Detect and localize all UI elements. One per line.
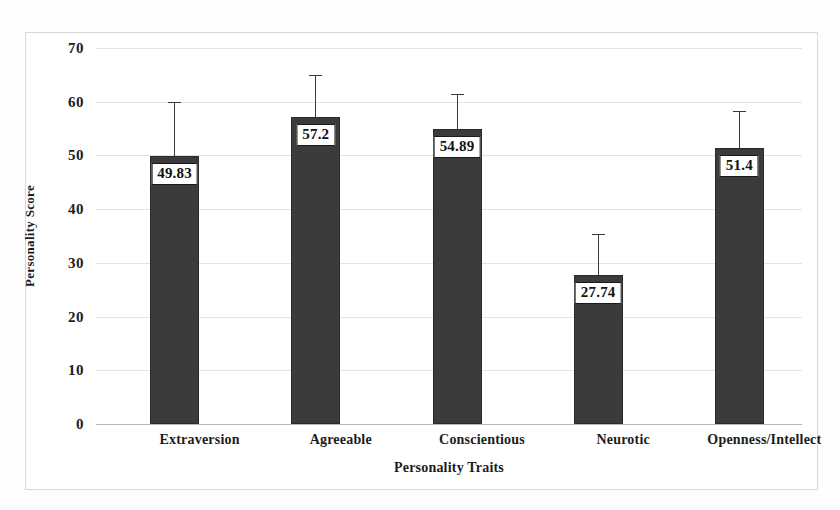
data-label: 51.4	[720, 155, 759, 177]
bar-extraversion[interactable]	[150, 156, 199, 424]
y-tick-label-30: 30	[68, 254, 84, 271]
y-tick-label-10: 10	[68, 362, 84, 379]
error-bar-cap	[592, 234, 605, 235]
data-label: 27.74	[575, 282, 622, 304]
error-bar	[457, 94, 458, 129]
data-label: 49.83	[151, 163, 198, 185]
data-label: 57.2	[296, 124, 335, 146]
x-tick-label-openness-intellect: Openness/Intellect	[679, 432, 840, 448]
gridline-0	[96, 424, 802, 425]
y-tick-label-70: 70	[68, 40, 84, 57]
bar-conscientious[interactable]	[433, 129, 482, 424]
error-bar-cap	[309, 75, 322, 76]
bar-openness-intellect[interactable]	[715, 148, 764, 424]
x-axis-title: Personality Traits	[96, 460, 802, 476]
y-axis-title: Personality Score	[22, 185, 38, 287]
bar-group: 27.74	[574, 48, 623, 424]
error-bar	[174, 102, 175, 157]
bar-agreeable[interactable]	[291, 117, 340, 424]
error-bar	[315, 75, 316, 116]
y-tick-label-50: 50	[68, 147, 84, 164]
plot-area: 706050403020100 49.8357.254.8927.7451.4 …	[96, 48, 802, 424]
error-bar	[598, 234, 599, 275]
y-tick-label-20: 20	[68, 308, 84, 325]
error-bar-cap	[168, 102, 181, 103]
bar-group: 54.89	[433, 48, 482, 424]
y-tick-label-60: 60	[68, 93, 84, 110]
y-tick-label-40: 40	[68, 201, 84, 218]
error-bar	[739, 111, 740, 148]
data-label: 54.89	[434, 136, 481, 158]
figure-canvas: Personality Score 706050403020100 49.835…	[0, 0, 840, 510]
bar-group: 49.83	[150, 48, 199, 424]
y-tick-label-0: 0	[76, 416, 84, 433]
bar-group: 57.2	[291, 48, 340, 424]
error-bar-cap	[733, 111, 746, 112]
bar-group: 51.4	[715, 48, 764, 424]
error-bar-cap	[451, 94, 464, 95]
